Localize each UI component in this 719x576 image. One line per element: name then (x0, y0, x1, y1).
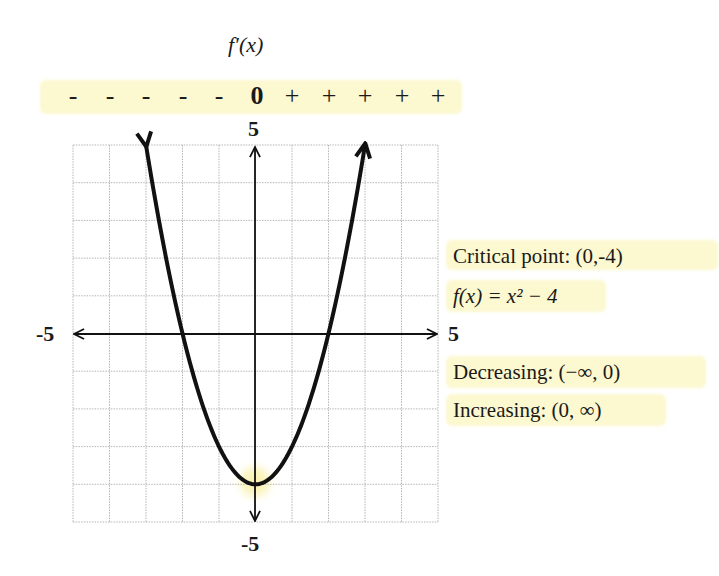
x-max-label: 5 (448, 321, 459, 347)
x-min-label: -5 (36, 321, 54, 347)
critical-point-text: Critical point: (0,-4) (453, 244, 623, 269)
y-min-label: -5 (241, 531, 259, 557)
increasing-text: Increasing: (0, ∞) (453, 398, 602, 423)
y-max-label: 5 (248, 116, 259, 142)
decreasing-text: Decreasing: (−∞, 0) (453, 360, 620, 385)
function-text: f(x) = x² − 4 (453, 284, 558, 309)
function-graph (0, 0, 719, 576)
